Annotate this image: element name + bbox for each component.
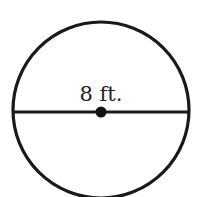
- circle-diagram: 8 ft.: [0, 0, 198, 197]
- diameter-label: 8 ft.: [80, 82, 123, 106]
- center-point: [96, 107, 107, 118]
